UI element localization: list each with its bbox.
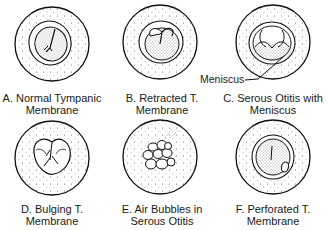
- panel-e-air-bubbles: [123, 120, 197, 194]
- panel-b-retracted-membrane: [123, 5, 197, 79]
- caption-e: E. Air Bubbles in Serous Otitis: [110, 203, 214, 227]
- meniscus-callout-label: Meniscus: [200, 73, 244, 85]
- caption-a: A. Normal Tympanic Membrane: [0, 92, 104, 116]
- caption-c: C. Serous Otitis with Meniscus: [219, 92, 327, 116]
- panel-c-serous-otitis-meniscus: [236, 5, 310, 80]
- caption-d: D. Bulging T. Membrane: [0, 203, 104, 227]
- caption-b: B. Retracted T. Membrane: [110, 92, 214, 116]
- panel-d-bulging-membrane: [15, 121, 89, 195]
- panel-a-normal-membrane: [15, 7, 89, 81]
- caption-f: F. Perforated T. Membrane: [221, 203, 325, 227]
- panel-f-perforated-membrane: [236, 120, 310, 194]
